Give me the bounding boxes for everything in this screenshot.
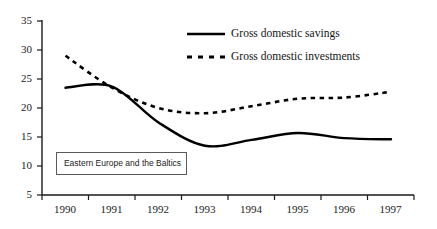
series-line-gross-domestic-savings (66, 84, 392, 146)
x-axis-label-1994: 1994 (228, 203, 274, 215)
chart-plot-area (0, 0, 437, 229)
x-axis-label-1996: 1996 (321, 203, 367, 215)
x-axis-label-1990: 1990 (42, 203, 88, 215)
x-axis-label-1995: 1995 (275, 203, 321, 215)
y-axis-label-15: 15 (8, 130, 32, 142)
annotation-box: Eastern Europe and the Baltics (56, 152, 187, 175)
legend-label-savings: Gross domestic savings (231, 27, 340, 39)
y-axis-label-35: 35 (8, 14, 32, 26)
y-axis-label-30: 30 (8, 43, 32, 55)
y-axis-label-5: 5 (8, 188, 32, 200)
x-axis-label-1991: 1991 (89, 203, 135, 215)
y-axis-ticks (37, 21, 42, 195)
x-axis-label-1993: 1993 (182, 203, 228, 215)
chart-container: 35 30 25 20 15 10 5 1990 1991 1992 1993 … (0, 0, 437, 229)
y-axis-label-25: 25 (8, 72, 32, 84)
x-axis-ticks (42, 195, 414, 200)
legend-label-investments: Gross domestic investments (231, 50, 360, 62)
y-axis-label-20: 20 (8, 101, 32, 113)
x-axis-label-1997: 1997 (368, 203, 414, 215)
series-line-gross-domestic-investments (66, 56, 392, 113)
annotation-label: Eastern Europe and the Baltics (57, 153, 188, 176)
x-axis-label-1992: 1992 (135, 203, 181, 215)
y-axis-label-10: 10 (8, 159, 32, 171)
